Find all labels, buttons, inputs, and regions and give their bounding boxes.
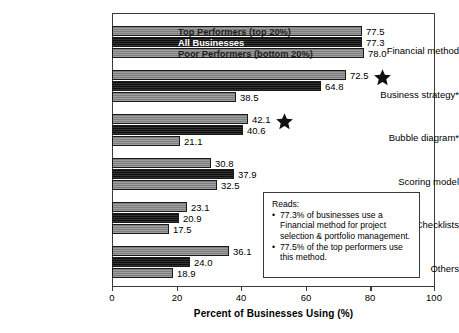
- category-label-bubble-diagram: Bubble diagram*: [351, 132, 459, 143]
- reads-item: 77.3% of businesses use a Financial meth…: [272, 210, 412, 241]
- reads-title: Reads:: [272, 199, 412, 209]
- bar-business-strategy-poor-performers: [112, 92, 236, 102]
- reads-callout-box: Reads: 77.3% of businesses use a Financi…: [263, 192, 420, 278]
- value-label-checklists-top-performers: 23.1: [191, 203, 210, 213]
- bar-scoring-model-poor-performers: [112, 180, 217, 190]
- bar-others-top-performers: [112, 246, 229, 256]
- star-icon-bubble-diagram: [275, 112, 294, 131]
- value-label-bubble-diagram-all-businesses: 40.6: [247, 126, 266, 136]
- legend-label-poor-performers: Poor Performers (bottom 20%): [178, 49, 313, 59]
- x-axis-title: Percent of Businesses Using (%): [112, 308, 435, 319]
- reads-list: 77.3% of businesses use a Financial meth…: [272, 210, 412, 263]
- bar-chart: Financial method Business strategy* Bubb…: [0, 0, 459, 333]
- category-label-scoring-model: Scoring model: [351, 176, 459, 187]
- bar-bubble-diagram-all-businesses: [112, 125, 243, 135]
- bar-business-strategy-top-performers: [112, 70, 346, 80]
- bar-scoring-model-all-businesses: [112, 169, 234, 179]
- value-label-others-all-businesses: 24.0: [194, 258, 213, 268]
- value-label-checklists-poor-performers: 17.5: [173, 225, 192, 235]
- value-label-bubble-diagram-top-performers: 42.1: [252, 115, 271, 125]
- reads-item: 77.5% of the top performers use this met…: [272, 242, 412, 263]
- value-label-financial-method-all-businesses: 77.3: [366, 38, 385, 48]
- x-tick-40: [241, 287, 242, 291]
- bar-business-strategy-all-businesses: [112, 81, 321, 91]
- value-label-financial-method-top-performers: 77.5: [366, 27, 385, 37]
- bar-checklists-top-performers: [112, 202, 187, 212]
- legend-label-all-businesses: All Businesses: [178, 38, 244, 48]
- value-label-business-strategy-top-performers: 72.5: [350, 71, 369, 81]
- x-tick-20: [177, 287, 178, 291]
- x-tick-0: [112, 287, 113, 291]
- value-label-business-strategy-all-businesses: 64.8: [325, 82, 344, 92]
- category-label-business-strategy: Business strategy*: [351, 89, 459, 100]
- x-tick-label-40: 40: [226, 292, 256, 303]
- bar-bubble-diagram-poor-performers: [112, 136, 180, 146]
- x-tick-label-0: 0: [97, 292, 127, 303]
- x-tick-label-80: 80: [355, 292, 385, 303]
- x-tick-label-60: 60: [291, 292, 321, 303]
- bar-bubble-diagram-top-performers: [112, 114, 248, 124]
- value-label-checklists-all-businesses: 20.9: [183, 214, 202, 224]
- x-tick-label-100: 100: [419, 292, 449, 303]
- x-tick-60: [306, 287, 307, 291]
- x-tick-label-20: 20: [162, 292, 192, 303]
- legend-label-top-performers: Top Performers (top 20%): [178, 27, 291, 37]
- value-label-scoring-model-all-businesses: 37.9: [238, 170, 257, 180]
- x-tick-100: [434, 287, 435, 291]
- value-label-others-poor-performers: 18.9: [177, 269, 196, 279]
- value-label-financial-method-poor-performers: 78.0: [368, 49, 387, 59]
- star-icon-business-strategy: [373, 68, 392, 87]
- x-tick-80: [370, 287, 371, 291]
- value-label-others-top-performers: 36.1: [233, 247, 252, 257]
- bar-checklists-all-businesses: [112, 213, 179, 223]
- bar-others-all-businesses: [112, 257, 190, 267]
- value-label-business-strategy-poor-performers: 38.5: [240, 93, 259, 103]
- bar-checklists-poor-performers: [112, 224, 169, 234]
- bar-scoring-model-top-performers: [112, 158, 211, 168]
- value-label-scoring-model-top-performers: 30.8: [215, 159, 234, 169]
- bar-others-poor-performers: [112, 268, 173, 278]
- value-label-scoring-model-poor-performers: 32.5: [221, 181, 240, 191]
- value-label-bubble-diagram-poor-performers: 21.1: [184, 137, 203, 147]
